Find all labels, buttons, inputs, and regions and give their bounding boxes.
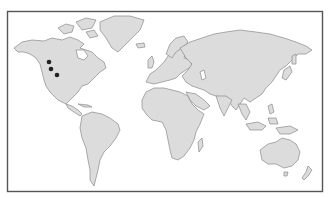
sakhalin: [292, 54, 296, 64]
map-marker[interactable]: [55, 73, 60, 78]
world-map-svg: [0, 0, 331, 198]
tasmania: [284, 172, 288, 176]
world-map: [0, 0, 331, 198]
map-marker[interactable]: [47, 60, 52, 65]
map-marker[interactable]: [49, 67, 54, 72]
iceland: [136, 43, 145, 48]
